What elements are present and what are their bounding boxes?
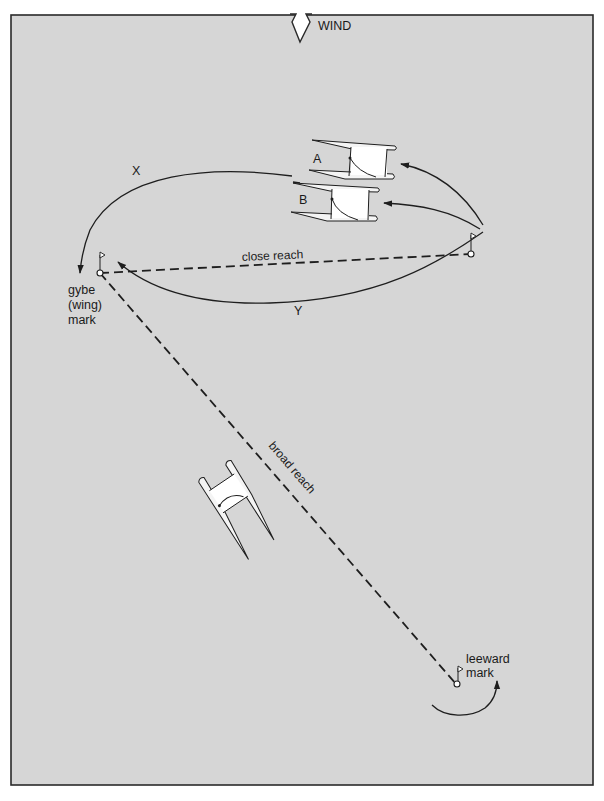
leeward-mark-label-line-1: leeward [466, 652, 510, 666]
gybe-mark-label-line-3: mark [68, 313, 97, 327]
mark-buoy-icon [454, 681, 460, 687]
leeward-mark-label-line-2: mark [466, 666, 495, 680]
path-y-label: Y [294, 304, 303, 318]
boat-a-label: A [313, 152, 322, 166]
close-reach-label: close reach [242, 247, 304, 264]
boat-b-label: B [299, 193, 307, 207]
gybe-mark-label-line-1: gybe [68, 283, 95, 297]
path-x-label: X [132, 164, 141, 178]
diagram-panel [11, 15, 593, 785]
wind-label: WIND [318, 19, 351, 33]
gybe-mark-label-line-2: (wing) [68, 298, 102, 312]
mark-buoy-icon [468, 251, 474, 257]
sailing-course-diagram: WIND close reach broad reach X Y A B [0, 0, 604, 801]
mark-buoy-icon [97, 270, 103, 276]
